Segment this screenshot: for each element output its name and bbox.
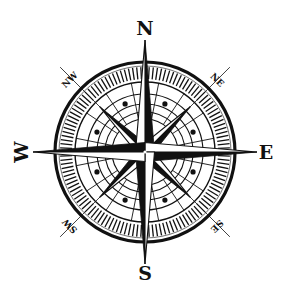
degree-tick xyxy=(163,70,166,82)
ring-dot xyxy=(162,197,167,202)
degree-tick xyxy=(217,135,229,137)
cardinal-point-light-half xyxy=(33,152,145,162)
degree-tick xyxy=(218,156,230,157)
cardinal-point-light-half xyxy=(136,40,146,152)
degree-tick xyxy=(212,119,223,124)
degree-tick xyxy=(170,221,174,232)
center-pivot xyxy=(143,150,146,153)
ring-dot xyxy=(123,197,128,202)
degree-tick xyxy=(215,173,226,176)
ring-dot xyxy=(94,130,99,135)
degree-tick xyxy=(152,225,153,237)
ring-dot xyxy=(123,101,128,106)
degree-tick xyxy=(159,69,161,81)
degree-tick xyxy=(170,72,174,83)
degree-tick xyxy=(156,68,158,80)
ring-dot xyxy=(190,130,195,135)
degree-tick xyxy=(65,123,76,127)
degree-tick xyxy=(120,71,123,82)
degree-tick xyxy=(65,177,76,181)
ring-dot xyxy=(94,169,99,174)
cardinal-point-light-half xyxy=(145,143,257,153)
degree-tick xyxy=(128,224,130,236)
degree-tick xyxy=(112,73,117,84)
degree-tick xyxy=(218,144,230,145)
compass-rose: N S E W NE SE SW NW xyxy=(0,0,289,297)
degree-tick xyxy=(62,135,74,137)
degree-tick xyxy=(141,225,142,237)
cardinal-point-light-half xyxy=(145,152,155,264)
degree-tick xyxy=(61,140,73,142)
degree-tick xyxy=(218,159,230,160)
degree-tick xyxy=(159,224,161,236)
west-label: W xyxy=(10,141,32,164)
degree-tick xyxy=(128,69,130,81)
degree-tick xyxy=(156,224,158,236)
degree-tick xyxy=(116,221,120,232)
degree-tick xyxy=(215,127,226,130)
degree-tick xyxy=(133,68,135,80)
degree-tick xyxy=(64,173,75,176)
degree-tick xyxy=(216,131,228,134)
degree-tick xyxy=(124,70,127,82)
cardinal-point-dark-half xyxy=(33,143,145,153)
degree-tick xyxy=(63,170,75,173)
degree-tick xyxy=(166,222,169,233)
cardinal-point-dark-half xyxy=(145,40,155,152)
degree-tick xyxy=(66,119,77,124)
ring-dot xyxy=(162,101,167,106)
southeast-label: SE xyxy=(209,218,226,235)
compass-rose-graphic: N S E W NE SE SW NW xyxy=(0,0,289,297)
degree-tick xyxy=(137,67,138,79)
degree-tick xyxy=(120,222,123,233)
degree-tick xyxy=(214,123,225,127)
degree-tick xyxy=(173,73,178,84)
degree-tick xyxy=(217,166,229,168)
degree-tick xyxy=(63,131,75,134)
degree-tick xyxy=(217,163,229,165)
degree-tick xyxy=(152,67,153,79)
southwest-label: SW xyxy=(60,216,79,235)
degree-tick xyxy=(64,127,75,130)
south-label: S xyxy=(138,262,152,284)
ring-dot xyxy=(190,169,195,174)
degree-tick xyxy=(212,180,223,185)
degree-tick xyxy=(133,224,135,236)
degree-tick xyxy=(173,219,178,230)
east-label: E xyxy=(259,141,273,163)
degree-tick xyxy=(61,163,73,165)
degree-tick xyxy=(149,67,150,79)
cardinal-point-dark-half xyxy=(145,152,257,162)
cardinal-point-dark-half xyxy=(136,152,146,264)
degree-tick xyxy=(124,223,127,235)
degree-tick xyxy=(163,223,166,235)
northwest-label: NW xyxy=(60,69,81,90)
degree-tick xyxy=(216,170,228,173)
degree-tick xyxy=(116,72,120,83)
degree-tick xyxy=(166,71,169,82)
degree-tick xyxy=(62,166,74,168)
degree-tick xyxy=(217,140,229,142)
degree-tick xyxy=(214,177,225,181)
degree-tick xyxy=(60,148,72,149)
degree-tick xyxy=(60,144,72,145)
degree-tick xyxy=(137,225,138,237)
degree-tick xyxy=(66,180,77,185)
degree-tick xyxy=(60,159,72,160)
north-label: N xyxy=(136,17,153,39)
degree-tick xyxy=(112,219,117,230)
